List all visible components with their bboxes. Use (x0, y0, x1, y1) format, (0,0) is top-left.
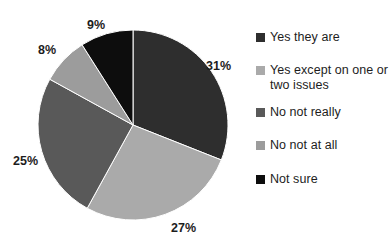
legend-item-label: No not at all (270, 138, 337, 153)
pie-chart: 31% 27% 25% 8% 9% Yes they are Yes excep… (0, 0, 390, 241)
legend-swatch-icon (256, 66, 265, 75)
pie-svg (0, 0, 250, 241)
slice-label-no-not-at-all: 8% (38, 43, 56, 57)
legend-item-label: Not sure (270, 172, 318, 187)
slice-label-no-not-really: 25% (13, 154, 38, 168)
legend-item-no-not-really[interactable]: No not really (256, 105, 390, 120)
legend-item-yes-except-one-two[interactable]: Yes except on one or two issues (256, 63, 390, 93)
slice-label-yes-except: 27% (171, 221, 196, 235)
legend-swatch-icon (256, 108, 265, 117)
legend-item-label: Yes they are (270, 30, 340, 45)
legend-swatch-icon (256, 33, 265, 42)
legend-item-not-sure[interactable]: Not sure (256, 172, 390, 187)
legend-item-no-not-at-all[interactable]: No not at all (256, 138, 390, 153)
legend-item-label: No not really (270, 105, 341, 120)
legend-item-yes-they-are[interactable]: Yes they are (256, 30, 390, 45)
slice-label-not-sure: 9% (87, 18, 105, 32)
slice-label-yes-they-are: 31% (206, 59, 231, 73)
legend-item-label: Yes except on one or two issues (270, 63, 390, 93)
legend-swatch-icon (256, 141, 265, 150)
legend-swatch-icon (256, 175, 265, 184)
pie-plot-area: 31% 27% 25% 8% 9% (0, 0, 250, 241)
